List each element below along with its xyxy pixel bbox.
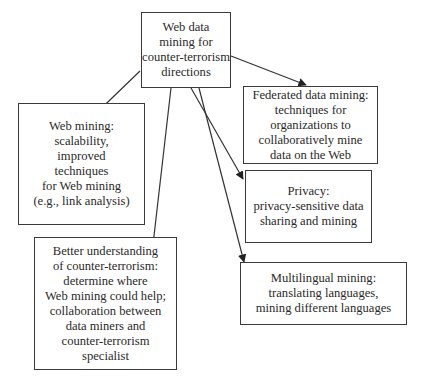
node-privacy-text: Privacy: privacy-sensitive data sharing … (253, 184, 363, 229)
edge-root-to-better-understanding (151, 88, 171, 262)
node-federated: Federated data mining: techniques for or… (243, 86, 378, 164)
node-privacy: Privacy: privacy-sensitive data sharing … (245, 170, 372, 243)
node-web-mining-text: Web mining: scalability, improved techni… (33, 119, 129, 209)
node-federated-text: Federated data mining: techniques for or… (252, 88, 368, 163)
node-multilingual-text: Multilingual mining: translating languag… (256, 271, 391, 316)
node-multilingual: Multilingual mining: translating languag… (240, 262, 407, 325)
edge-root-to-privacy (191, 88, 243, 179)
root-node-text: Web data mining for counter-terrorism di… (142, 20, 230, 80)
node-better-understanding-text: Better understanding of counter-terroris… (45, 244, 166, 364)
node-web-mining: Web mining: scalability, improved techni… (18, 103, 145, 225)
edge-root-to-federated (231, 56, 306, 85)
node-better-understanding: Better understanding of counter-terroris… (34, 237, 177, 370)
edge-root-to-multilingual (199, 88, 244, 262)
root-node: Web data mining for counter-terrorism di… (141, 12, 231, 88)
diagram-canvas: Web data mining for counter-terrorism di… (0, 0, 422, 381)
